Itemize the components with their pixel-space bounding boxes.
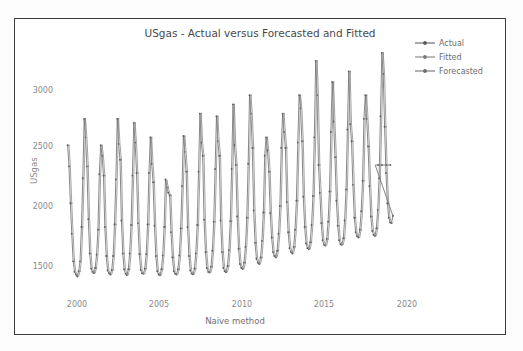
x-tick-2010: 2010: [225, 300, 259, 309]
series-fitted-line: [69, 53, 393, 277]
legend-label-fitted: Fitted: [439, 53, 462, 62]
line-marker-icon: [415, 66, 435, 76]
plot-area: [61, 45, 405, 293]
x-tick-2000: 2000: [60, 300, 94, 309]
x-axis-title: Naive method: [155, 316, 315, 326]
legend-item-forecasted[interactable]: Forecasted: [415, 65, 501, 77]
figure-frame: USgas - Actual versus Forecasted and Fit…: [14, 18, 506, 335]
y-tick-3000: 3000: [19, 86, 53, 95]
chart-legend: Actual Fitted Forecasted: [415, 37, 501, 79]
x-tick-2015: 2015: [307, 300, 341, 309]
y-tick-1500: 1500: [19, 262, 53, 271]
series-plot: [61, 45, 405, 293]
legend-label-forecasted: Forecasted: [439, 67, 483, 76]
line-marker-icon: [415, 38, 435, 48]
legend-item-actual[interactable]: Actual: [415, 37, 501, 49]
legend-label-actual: Actual: [439, 39, 464, 48]
y-axis-title: USgas: [29, 157, 39, 184]
series-fitted-group: [68, 52, 393, 276]
legend-item-fitted[interactable]: Fitted: [415, 51, 501, 63]
x-tick-2005: 2005: [142, 300, 176, 309]
y-tick-2000: 2000: [19, 202, 53, 211]
scan-artifact-text: [2, 0, 122, 13]
x-tick-2020: 2020: [390, 300, 424, 309]
line-marker-icon: [415, 52, 435, 62]
figure-page: USgas - Actual versus Forecasted and Fit…: [0, 0, 523, 351]
y-tick-2500: 2500: [19, 142, 53, 151]
